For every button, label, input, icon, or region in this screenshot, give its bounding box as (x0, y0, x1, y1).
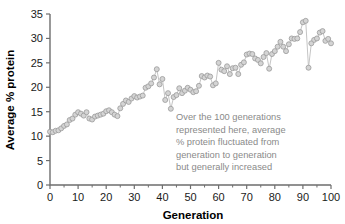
data-point-marker (236, 72, 241, 77)
annotation-line: but generally increased (176, 162, 272, 172)
data-point-marker (241, 60, 246, 65)
x-tick-label: 80 (269, 191, 281, 203)
data-point-marker (284, 49, 289, 54)
data-point-marker (303, 18, 308, 23)
data-point-marker (157, 82, 162, 87)
data-point-marker (278, 39, 283, 44)
data-point-marker (208, 74, 213, 79)
x-tick-label: 50 (184, 191, 196, 203)
data-point-marker (298, 30, 303, 35)
data-point-marker (84, 110, 89, 115)
y-tick-label: 25 (31, 57, 43, 69)
data-point-marker (227, 72, 232, 77)
data-point-marker (160, 76, 165, 81)
data-point-marker (174, 93, 179, 98)
x-tick-label: 30 (128, 191, 140, 203)
annotation-line: generation to generation (176, 150, 277, 160)
annotation-line: Over the 100 generations (176, 112, 281, 122)
data-point-marker (216, 60, 221, 65)
data-point-marker (222, 69, 227, 74)
annotation-line: % protein fluctuated from (176, 137, 280, 147)
data-point-marker (163, 97, 168, 102)
data-point-marker (314, 36, 319, 41)
data-point-marker (151, 75, 156, 80)
data-point-marker (166, 91, 171, 96)
data-point-marker (149, 81, 154, 86)
chart-annotation: Over the 100 generationsrepresented here… (176, 112, 286, 172)
y-axis-title: Average % protein (4, 50, 16, 151)
y-tick-label: 5 (37, 155, 43, 167)
data-point-marker (213, 81, 218, 86)
data-point-marker (286, 42, 291, 47)
x-tick-label: 0 (47, 191, 53, 203)
data-point-marker (264, 51, 269, 56)
data-point-marker (168, 106, 173, 111)
data-point-marker (225, 64, 230, 69)
x-tick-label: 60 (212, 191, 224, 203)
y-tick-label: 35 (31, 8, 43, 20)
data-point-marker (320, 29, 325, 34)
x-tick-label: 40 (156, 191, 168, 203)
y-tick-label: 20 (31, 81, 43, 93)
data-point-marker (233, 65, 238, 70)
data-point-marker (267, 66, 272, 71)
x-tick-label: 90 (297, 191, 309, 203)
protein-generation-scatter-chart: 051015202530350102030405060708090100 Ove… (0, 0, 345, 224)
x-tick-label: 100 (322, 191, 340, 203)
y-tick-label: 0 (37, 179, 43, 191)
data-point-marker (295, 36, 300, 41)
y-tick-label: 30 (31, 32, 43, 44)
y-tick-label: 10 (31, 130, 43, 142)
data-point-marker (177, 86, 182, 91)
data-point-marker (115, 114, 120, 119)
data-point-marker (196, 83, 201, 88)
data-point-marker (154, 67, 159, 72)
data-point-marker (306, 65, 311, 70)
chart-container: 051015202530350102030405060708090100 Ove… (0, 0, 345, 224)
annotation-line: represented here, average (176, 125, 286, 135)
y-tick-label: 15 (31, 106, 43, 118)
x-tick-label: 70 (241, 191, 253, 203)
x-tick-label: 20 (100, 191, 112, 203)
data-point-marker (140, 93, 145, 98)
x-axis-title: Generation (163, 209, 224, 221)
data-point-marker (275, 44, 280, 49)
x-tick-label: 10 (72, 191, 84, 203)
data-point-marker (194, 89, 199, 94)
data-point-marker (258, 61, 263, 66)
data-point-marker (329, 41, 334, 46)
